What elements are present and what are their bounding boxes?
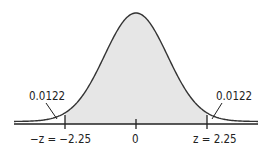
shaded-central-region	[65, 13, 207, 124]
right-z-label: z = 2.25	[193, 132, 237, 146]
left-z-label: −z = −2.25	[30, 132, 91, 146]
right-tail-leader-line	[212, 103, 222, 119]
normal-curve-diagram: 0.0122 0.0122 −z = −2.25 0 z = 2.25	[0, 0, 268, 152]
right-tail-area-label: 0.0122	[216, 89, 252, 103]
left-tail-leader-line	[46, 103, 57, 119]
center-label: 0	[132, 132, 139, 146]
left-tail-area-label: 0.0122	[29, 89, 65, 103]
